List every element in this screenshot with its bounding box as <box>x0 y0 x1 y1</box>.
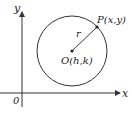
x-axis-label: x <box>122 87 129 100</box>
point-p <box>95 25 98 28</box>
center-label: O(h,k) <box>61 55 93 66</box>
origin-label: 0 <box>13 95 20 106</box>
point-p-label: P(x,y) <box>96 14 126 25</box>
center-point <box>70 49 73 52</box>
y-axis-label: y <box>13 2 21 15</box>
radius-label: r <box>76 28 82 39</box>
circle-diagram: y x 0 P(x,y) r O(h,k) <box>0 0 132 113</box>
